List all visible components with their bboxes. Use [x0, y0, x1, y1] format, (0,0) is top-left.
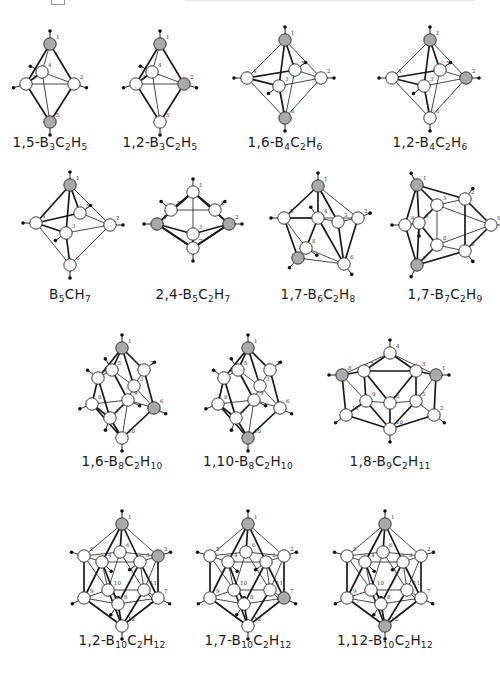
atom-number: 1 [391, 514, 395, 520]
formula-label: 1,12-B10C2H12 [337, 632, 433, 650]
element-symbol: B [373, 632, 383, 648]
atom-number: 11 [413, 580, 420, 586]
boron-atom [341, 592, 353, 604]
hydrogen-atom [432, 550, 436, 554]
cluster-diagram-m14: 123456789101112 [0, 0, 500, 673]
boron-atom [375, 598, 387, 610]
isomer-prefix: 1,12- [337, 632, 373, 648]
atom-number: 10 [377, 580, 384, 586]
boron-atom [415, 550, 427, 562]
atom-count: 12 [421, 640, 433, 650]
boron-atom [377, 546, 389, 558]
boron-atom [365, 584, 377, 596]
boron-atom [401, 584, 413, 596]
atom-number: 3 [409, 552, 413, 558]
hydrogen-atom [372, 569, 376, 573]
atom-number: 4 [371, 552, 375, 558]
atom-number: 2 [427, 546, 431, 552]
hydrogen-atom [334, 602, 338, 606]
atoms: 123456789101112 [341, 514, 431, 632]
atom-number: 6 [389, 542, 393, 548]
hydrogen-atom [333, 550, 337, 554]
boron-atom [341, 550, 353, 562]
atom-number: 5 [353, 546, 357, 552]
boron-atom [415, 592, 427, 604]
atom-number: 8 [387, 594, 391, 600]
hydrogen-atom [372, 613, 376, 617]
atom-number: 7 [427, 588, 431, 594]
hydrogen-atom [431, 602, 435, 606]
hydrogen-atom [383, 509, 387, 513]
atom-number: 12 [391, 616, 398, 622]
carbon-atom [379, 620, 391, 632]
element-symbol: C [395, 632, 405, 648]
element-symbol: H [410, 632, 420, 648]
bonds [347, 524, 421, 626]
boron-atom [397, 556, 409, 568]
atom-count: 10 [383, 640, 395, 650]
boron-atom [359, 556, 371, 568]
carbon-atom [379, 518, 391, 530]
hydrogen-atom [391, 568, 395, 572]
atom-number: 9 [353, 588, 357, 594]
